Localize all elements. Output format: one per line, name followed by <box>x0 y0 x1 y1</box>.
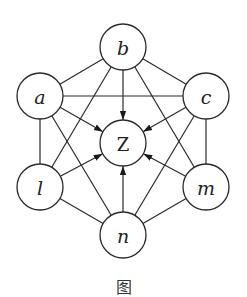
nodes-layer: bacZlmn <box>17 24 229 258</box>
node-label: b <box>117 37 129 59</box>
arrow-l-Z <box>60 154 102 176</box>
node-m: m <box>183 164 229 210</box>
node-a: a <box>17 73 63 119</box>
node-label: Z <box>117 134 130 155</box>
node-label: a <box>34 86 45 108</box>
node-b: b <box>100 24 146 70</box>
edge-b-c <box>143 59 186 85</box>
node-label: m <box>197 177 215 199</box>
node-label: l <box>37 177 43 199</box>
edge-m-n <box>143 199 186 224</box>
edge-l-n <box>60 199 103 224</box>
arrow-m-Z <box>143 154 185 176</box>
arrow-a-Z <box>60 107 103 131</box>
node-n: n <box>100 212 146 258</box>
node-label: c <box>201 86 212 108</box>
node-Z: Z <box>100 120 146 166</box>
edge-a-b <box>60 59 103 85</box>
node-label: n <box>117 225 129 247</box>
arrow-c-Z <box>143 107 186 131</box>
node-c: c <box>183 73 229 119</box>
node-l: l <box>17 164 63 210</box>
figure-caption: 图 <box>0 280 247 296</box>
